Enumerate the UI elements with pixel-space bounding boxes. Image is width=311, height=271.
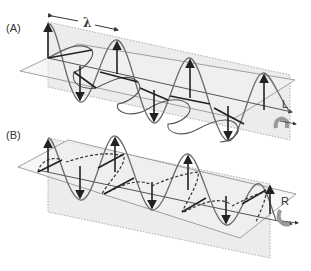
polarization-diagram: λ (A) L (B) [0,0,311,271]
panel-label-a: (A) [6,22,21,34]
panel-b: (B) R [6,129,298,258]
handedness-label-r: R [281,195,289,207]
wavelength-symbol: λ [83,16,91,30]
clockwise-rotation-icon [279,210,298,224]
panel-label-b: (B) [6,129,21,141]
handedness-label-l: L [282,98,288,110]
panel-a: λ (A) L [6,16,296,142]
